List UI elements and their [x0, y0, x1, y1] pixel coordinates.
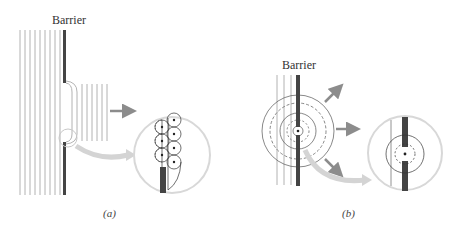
- barrier-label-b: Barrier: [282, 58, 316, 73]
- barrier-inset-a: [160, 167, 166, 193]
- inset-b: [368, 116, 442, 191]
- barrier-bottom-b: [296, 135, 300, 186]
- incident-wave-lines-b: [277, 75, 291, 185]
- propagation-arrow-down-b: [325, 159, 340, 174]
- panel-a: [20, 30, 210, 195]
- incident-wave-lines-a: [20, 30, 60, 195]
- magnify-arrow-b: [305, 150, 365, 181]
- caption-a: (a): [103, 207, 116, 219]
- propagation-arrow-up-b: [325, 87, 340, 102]
- transmitted-wave-lines-a: [66, 81, 107, 144]
- inset-a: [134, 113, 210, 193]
- magnify-arrow-a: [76, 146, 128, 157]
- diffraction-figure: [0, 0, 457, 237]
- barrier-bottom-a: [63, 142, 66, 195]
- barrier-top-b: [296, 75, 300, 127]
- barrier-top-a: [63, 30, 66, 83]
- magnify-circle-small-a: [59, 129, 77, 147]
- barrier-label-a: Barrier: [52, 13, 86, 28]
- point-source-b: [297, 130, 300, 133]
- caption-b: (b): [342, 207, 355, 219]
- panel-b: [262, 75, 442, 191]
